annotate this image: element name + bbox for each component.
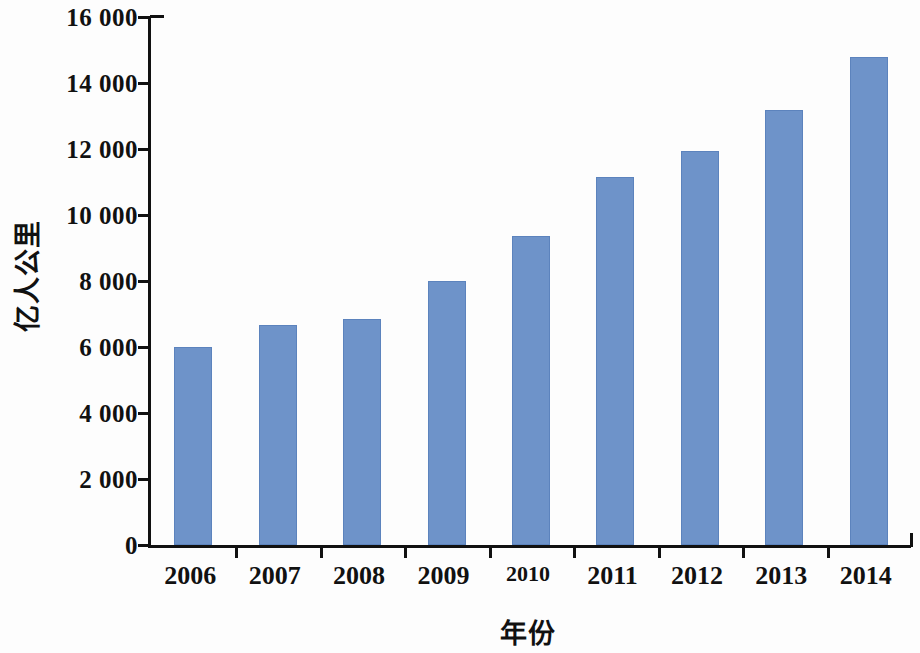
bar [512, 236, 550, 545]
x-axis-tick-mark [489, 545, 492, 558]
y-axis-tick-label: 12 000 [0, 137, 148, 162]
y-axis-tick-label: 16 000 [0, 5, 148, 30]
x-axis-tick-mark [658, 545, 661, 558]
x-axis-tick-label: 2007 [249, 563, 301, 589]
bar [850, 57, 888, 545]
x-axis-tick-mark [827, 545, 830, 558]
x-axis-tick-label: 2006 [164, 563, 216, 589]
plot-area [148, 17, 911, 548]
y-axis-tick-mark [138, 346, 151, 349]
bar-chart-figure: 亿人公里 02 0004 0006 0008 00010 00012 00014… [0, 0, 920, 653]
y-axis-tick-mark [138, 214, 151, 217]
y-axis-tick-label: 14 000 [0, 71, 148, 96]
bar [174, 347, 212, 545]
y-axis-tick-label: 8 000 [0, 269, 148, 294]
bar [765, 110, 803, 545]
x-axis-tick-label: 2008 [333, 563, 385, 589]
y-axis-tick-mark [138, 16, 151, 19]
x-axis-tick-label: 2014 [840, 563, 892, 589]
x-axis-tick-mark [320, 545, 323, 558]
bar [259, 325, 297, 545]
bar [428, 281, 466, 545]
x-axis-tick-mark [404, 545, 407, 558]
axis-top-cap [150, 15, 164, 18]
y-axis-tick-label: 10 000 [0, 203, 148, 228]
bar [596, 177, 634, 545]
x-axis-tick-label: 2011 [587, 563, 638, 589]
bar [681, 151, 719, 545]
y-axis-tick-label: 2 000 [0, 467, 148, 492]
x-axis-tick-label: 2013 [755, 563, 807, 589]
y-axis-tick-mark [138, 280, 151, 283]
x-axis-title: 年份 [148, 612, 908, 651]
y-axis-tick-mark [138, 478, 151, 481]
y-axis-tick-mark [138, 82, 151, 85]
x-axis-tick-label: 2010 [506, 563, 550, 585]
x-axis-tick-mark [742, 545, 745, 558]
x-axis-tick-mark [573, 545, 576, 558]
y-axis-tick-label: 0 [0, 533, 148, 558]
y-axis-tick-labels: 02 0004 0006 0008 00010 00012 00014 0001… [0, 0, 148, 653]
axis-right-cap [910, 533, 913, 547]
y-axis-tick-label: 6 000 [0, 335, 148, 360]
x-axis-tick-label: 2009 [418, 563, 470, 589]
x-axis-tick-mark [235, 545, 238, 558]
x-axis-tick-label: 2012 [671, 563, 723, 589]
y-axis-tick-mark [138, 544, 151, 547]
y-axis-tick-mark [138, 412, 151, 415]
y-axis-tick-label: 4 000 [0, 401, 148, 426]
y-axis-tick-mark [138, 148, 151, 151]
bar [343, 319, 381, 545]
x-axis-tick-labels: 200620072008200920102011201220132014 [148, 563, 908, 603]
